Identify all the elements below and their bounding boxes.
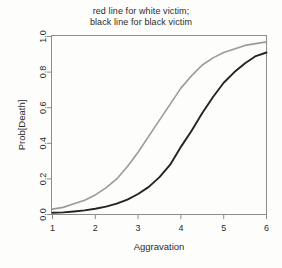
y-tick-label-3: 0.6 <box>38 101 48 114</box>
y-tick-label-4: 0.8 <box>38 66 48 79</box>
y-tick-label-0: 0.0 <box>38 208 48 221</box>
x-axis-ticks <box>53 215 267 220</box>
x-tick-label-3: 4 <box>178 223 183 233</box>
chart-plot-area: 0.0 0.2 0.4 0.6 0.8 1.0 Prob[Death] 1 2 … <box>0 0 282 268</box>
x-tick-label-5: 6 <box>264 223 269 233</box>
figure-container: red line for white victim; black line fo… <box>0 0 282 268</box>
y-axis-ticks <box>47 37 52 215</box>
x-tick-label-4: 5 <box>221 223 226 233</box>
x-tick-label-2: 3 <box>136 223 141 233</box>
series-group <box>53 42 267 213</box>
y-tick-label-2: 0.4 <box>38 137 48 150</box>
y-tick-label-1: 0.2 <box>38 173 48 186</box>
y-axis-tick-labels: 0.0 0.2 0.4 0.6 0.8 1.0 <box>38 30 48 221</box>
series-line-black-victim <box>53 53 267 213</box>
y-tick-label-5: 1.0 <box>38 30 48 43</box>
plot-frame <box>52 36 267 215</box>
x-tick-label-1: 2 <box>93 223 98 233</box>
y-axis-title: Prob[Death] <box>16 100 27 151</box>
x-axis-tick-labels: 1 2 3 4 5 6 <box>50 223 269 233</box>
series-line-white-victim <box>53 42 267 209</box>
x-tick-label-0: 1 <box>50 223 55 233</box>
x-axis-title: Aggravation <box>134 241 185 252</box>
